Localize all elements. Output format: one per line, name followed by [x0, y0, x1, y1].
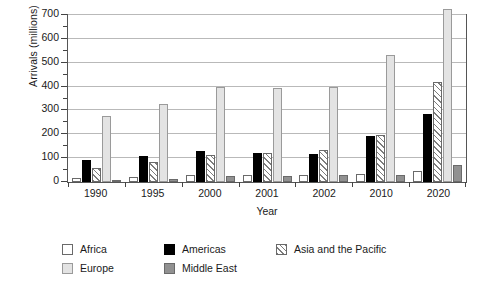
- x-axis-tick-label: 2002: [296, 187, 353, 199]
- y-axis-tick-label: 300: [41, 102, 59, 114]
- legend-swatch-mideast: [164, 263, 175, 274]
- bar-group: [239, 15, 296, 182]
- y-axis-tick-label: 500: [41, 55, 59, 67]
- legend-swatch-africa: [62, 244, 73, 255]
- bar-africa: [356, 174, 365, 182]
- bar-americas: [196, 151, 205, 182]
- legend-swatch-asia: [276, 244, 287, 255]
- bar-group: [352, 15, 409, 182]
- chart-legend: AfricaAmericasAsia and the PacificEurope…: [62, 243, 462, 274]
- bar-mideast: [112, 180, 121, 182]
- bar-africa: [186, 175, 195, 182]
- bar-mideast: [339, 175, 348, 182]
- bar-europe: [329, 87, 338, 182]
- bar-group: [409, 15, 466, 182]
- bar-mideast: [169, 179, 178, 182]
- bar-europe: [386, 55, 395, 182]
- bar-europe: [216, 87, 225, 182]
- legend-label: Middle East: [182, 262, 237, 274]
- bar-americas: [309, 154, 318, 182]
- bar-asia: [206, 155, 215, 182]
- y-axis-tick-label: 400: [41, 79, 59, 91]
- x-axis-tick-labels: 1990199520002001200220102020: [67, 187, 467, 199]
- bar-asia: [433, 82, 442, 182]
- bar-africa: [243, 175, 252, 182]
- legend-item-africa: Africa: [62, 243, 164, 255]
- bar-asia: [149, 162, 158, 182]
- x-axis-tick-label: 2020: [410, 187, 467, 199]
- bar-asia: [319, 150, 328, 182]
- bar-americas: [139, 156, 148, 182]
- bar-africa: [72, 178, 81, 182]
- legend-label: Europe: [80, 262, 114, 274]
- bar-mideast: [226, 176, 235, 182]
- legend-item-asia: Asia and the Pacific: [276, 243, 386, 255]
- y-axis-tick-label: 600: [41, 31, 59, 43]
- legend-label: Africa: [80, 243, 107, 255]
- y-axis-title: Arrivals (millions): [27, 0, 39, 126]
- bar-asia: [376, 135, 385, 182]
- bar-americas: [253, 153, 262, 182]
- legend-item-mideast: Middle East: [164, 262, 276, 274]
- bar-europe: [159, 104, 168, 182]
- x-axis-tick-label: 2000: [181, 187, 238, 199]
- bar-group: [68, 15, 125, 182]
- y-axis-tick-label: 700: [41, 7, 59, 19]
- x-axis-tick-label: 1995: [124, 187, 181, 199]
- y-axis-tick-label: 200: [41, 126, 59, 138]
- bar-asia: [92, 168, 101, 182]
- bar-mideast: [453, 165, 462, 182]
- x-axis-tick-label: 2001: [238, 187, 295, 199]
- bar-americas: [423, 114, 432, 182]
- bar-africa: [413, 171, 422, 182]
- bar-group: [182, 15, 239, 182]
- bar-chart: Arrivals (millions) 01002003004005006007…: [0, 0, 487, 283]
- bar-europe: [102, 116, 111, 182]
- plot-area: 0100200300400500600700: [67, 14, 467, 183]
- legend-swatch-americas: [164, 244, 175, 255]
- legend-item-europe: Europe: [62, 262, 164, 274]
- bar-africa: [129, 177, 138, 182]
- x-axis-title: Year: [67, 205, 467, 217]
- bar-mideast: [396, 175, 405, 182]
- bar-group: [295, 15, 352, 182]
- legend-swatch-europe: [62, 263, 73, 274]
- bar-americas: [82, 160, 91, 182]
- bar-americas: [366, 136, 375, 182]
- x-axis-tick-label: 2010: [353, 187, 410, 199]
- bar-europe: [443, 9, 452, 182]
- bar-group: [125, 15, 182, 182]
- bar-mideast: [283, 176, 292, 182]
- legend-label: Asia and the Pacific: [294, 243, 386, 255]
- bar-europe: [273, 88, 282, 182]
- legend-item-americas: Americas: [164, 243, 276, 255]
- bar-africa: [299, 175, 308, 182]
- bar-asia: [263, 153, 272, 182]
- bar-groups: [68, 15, 466, 182]
- x-axis-tick-label: 1990: [67, 187, 124, 199]
- y-axis-tick-label: 0: [53, 174, 59, 186]
- legend-label: Americas: [182, 243, 226, 255]
- y-axis-tick-label: 100: [41, 150, 59, 162]
